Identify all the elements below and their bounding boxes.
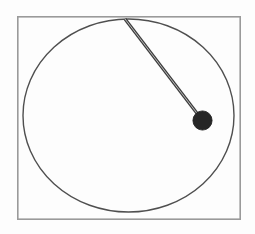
pendulum-bob bbox=[193, 111, 212, 130]
simulation-canvas bbox=[0, 0, 255, 234]
pendulum-diagram bbox=[0, 0, 255, 234]
pendulum-rod-highlight bbox=[125, 19, 203, 121]
